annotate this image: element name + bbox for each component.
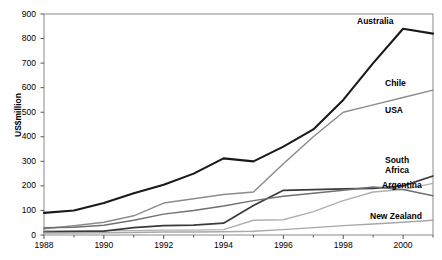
series-line-australia — [44, 29, 433, 213]
x-axis-tick-label: 1990 — [84, 241, 124, 250]
x-axis-tick-label: 1992 — [144, 241, 184, 250]
series-label-argentina: Argentina — [382, 181, 422, 191]
y-axis-tick-label: 300 — [10, 157, 36, 166]
y-axis-tick-label: 0 — [10, 231, 36, 240]
x-axis-tick-label: 1998 — [323, 241, 363, 250]
x-axis-tick-label: 1996 — [263, 241, 303, 250]
plot-frame — [44, 14, 433, 235]
line-chart: US$million 0100200300400500600700800900 … — [0, 0, 442, 260]
y-axis-tick-label: 600 — [10, 83, 36, 92]
series-label-australia: Australia — [357, 17, 393, 27]
x-axis-tick-label: 1988 — [24, 241, 64, 250]
x-axis-tick-label: 1994 — [204, 241, 244, 250]
y-axis-tick-label: 900 — [10, 10, 36, 19]
series-label-new-zealand: New Zealand — [370, 212, 422, 222]
y-axis-tick-label: 700 — [10, 59, 36, 68]
y-axis-tick-label: 100 — [10, 206, 36, 215]
y-axis-tick-label: 800 — [10, 34, 36, 43]
y-axis-tick-label: 400 — [10, 132, 36, 141]
series-label-chile: Chile — [385, 79, 406, 89]
series-label-south-africa: South Africa — [385, 156, 409, 175]
series-label-usa: USA — [385, 106, 403, 116]
x-axis-tick-label: 2000 — [383, 241, 423, 250]
y-axis-tick-label: 200 — [10, 181, 36, 190]
y-axis-tick-label: 500 — [10, 108, 36, 117]
